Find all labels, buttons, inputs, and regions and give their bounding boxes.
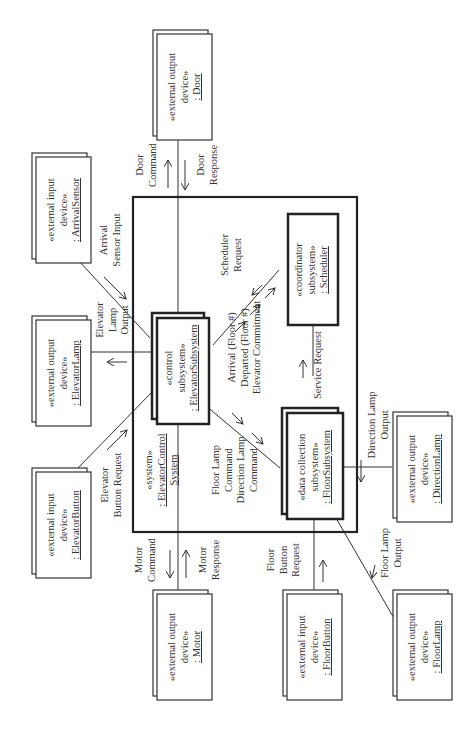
- msg-direction-lamp-output: Direction Lamp Output: [366, 390, 391, 460]
- stereotype: «external input: [45, 160, 58, 260]
- msg-text: Elevator: [94, 295, 107, 345]
- arrival-sensor-device-label: «external input device» : ArrivalSensor: [45, 160, 83, 260]
- instance-name: : FloorLamp: [431, 597, 444, 697]
- door-device-label: «external output device» : Door: [166, 37, 204, 137]
- instance-name: : ElevatorSubsystem: [188, 318, 201, 418]
- floor-button-device-label: «external input device» : FloorButton: [296, 597, 334, 697]
- stereotype: «external output: [406, 597, 419, 697]
- system-name: : ElevatorControl: [156, 425, 169, 515]
- msg-elevator-lamp-output: Elevator Lamp Output: [94, 295, 132, 345]
- instance-name: : Motor: [191, 597, 204, 697]
- msg-arrival-sensor-input: Arrival Sensor Input: [98, 205, 123, 275]
- msg-text: Direction Lamp: [366, 390, 379, 460]
- stereotype: «external input: [45, 475, 58, 575]
- stereotype: device»: [58, 323, 71, 423]
- elevator-lamp-device-label: «external output device» : ElevatorLamp: [45, 323, 83, 423]
- direction-lamp-device-label: «external output device» : DirectionLamp: [406, 419, 444, 519]
- msg-text: Sensor Input: [111, 205, 124, 275]
- instance-name: : Scheduler: [318, 220, 331, 320]
- msg-text: Request: [290, 540, 303, 580]
- msg-text: Command: [147, 135, 160, 195]
- msg-door-command: Door Command: [134, 135, 159, 195]
- system-label: «system» : ElevatorControl System: [143, 425, 181, 515]
- stereotype: «external output: [45, 323, 58, 423]
- msg-text: Arrival (Floor #): [226, 295, 239, 400]
- msg-door-response: Door Response: [195, 135, 220, 195]
- stereotype: «control: [163, 318, 176, 418]
- msg-elevator-button-request: Elevator Button Request: [99, 445, 124, 525]
- msg-text: Door: [134, 135, 147, 195]
- stereotype: «external output: [166, 597, 179, 697]
- stereotype: subsystem»: [176, 318, 189, 418]
- system-stereotype: «system»: [143, 425, 156, 515]
- stereotype: «external input: [296, 597, 309, 697]
- msg-text: Floor Lamp: [379, 523, 392, 583]
- msg-arrival-departed-commitment: Arrival (Floor #) Departed (Floor #) Ele…: [226, 295, 264, 400]
- floor-lamp-device-label: «external output device» : FloorLamp: [406, 597, 444, 697]
- msg-floor-lamp-output: Floor Lamp Output: [379, 523, 404, 583]
- stereotype: device»: [58, 475, 71, 575]
- floor-subsystem-label: «data collection subsystem» : FloorSubsy…: [296, 417, 334, 517]
- msg-service-request: Service Request: [312, 325, 325, 405]
- msg-text: Motor: [197, 530, 210, 590]
- stereotype: device»: [309, 597, 322, 697]
- msg-text: Arrival: [98, 205, 111, 275]
- msg-text: Floor: [265, 540, 278, 580]
- instance-name: : FloorSubsystem: [321, 417, 334, 517]
- msg-text: Response: [210, 530, 223, 590]
- stereotype: «coordinator: [293, 220, 306, 320]
- system-name-line2: System: [168, 425, 181, 515]
- msg-text: Output: [119, 295, 132, 345]
- elevator-subsystem-label: «control subsystem» : ElevatorSubsystem: [163, 318, 201, 418]
- instance-name: : ElevatorButton: [70, 475, 83, 575]
- instance-name: : ArrivalSensor: [70, 160, 83, 260]
- stereotype: «external output: [406, 419, 419, 519]
- stereotype: device»: [58, 160, 71, 260]
- msg-motor-command: Motor Command: [133, 530, 158, 590]
- msg-text: Lamp: [107, 295, 120, 345]
- instance-name: : Door: [191, 37, 204, 137]
- motor-device-label: «external output device» : Motor: [166, 597, 204, 697]
- instance-name: : ElevatorLamp: [70, 323, 83, 423]
- msg-text: Output: [392, 523, 405, 583]
- msg-text: Service Request: [312, 325, 325, 405]
- msg-text: Command: [248, 430, 261, 510]
- scheduler-label: «coordinator subsystem» : Scheduler: [293, 220, 331, 320]
- stereotype: device»: [419, 597, 432, 697]
- stereotype: device»: [179, 597, 192, 697]
- msg-lamp-commands: Floor Lamp Command Direction Lamp Comman…: [210, 430, 260, 510]
- msg-text: Motor: [133, 530, 146, 590]
- msg-text: Door: [195, 135, 208, 195]
- msg-text: Scheduler: [219, 225, 232, 285]
- stereotype: subsystem»: [309, 417, 322, 517]
- msg-text: Command: [223, 430, 236, 510]
- msg-text: Departed (Floor #): [239, 295, 252, 400]
- msg-text: Floor Lamp: [210, 430, 223, 510]
- msg-text: Button: [278, 540, 291, 580]
- msg-text: Response: [208, 135, 221, 195]
- msg-text: Button Request: [112, 445, 125, 525]
- instance-name: : DirectionLamp: [431, 419, 444, 519]
- msg-floor-button-request: Floor Button Request: [265, 540, 303, 580]
- instance-name: : FloorButton: [321, 597, 334, 697]
- elevator-button-device-label: «external input device» : ElevatorButton: [45, 475, 83, 575]
- stereotype: device»: [179, 37, 192, 137]
- stereotype: «external output: [166, 37, 179, 137]
- msg-text: Elevator: [99, 445, 112, 525]
- stereotype: device»: [419, 419, 432, 519]
- msg-scheduler-request: Scheduler Request: [219, 225, 244, 285]
- msg-text: Direction Lamp: [235, 430, 248, 510]
- msg-text: Command: [146, 530, 159, 590]
- stereotype: «data collection: [296, 417, 309, 517]
- msg-motor-response: Motor Response: [197, 530, 222, 590]
- msg-text: Request: [232, 225, 245, 285]
- msg-text: Output: [379, 390, 392, 460]
- msg-text: Elevator Commitment: [251, 295, 264, 400]
- stereotype: subsystem»: [306, 220, 319, 320]
